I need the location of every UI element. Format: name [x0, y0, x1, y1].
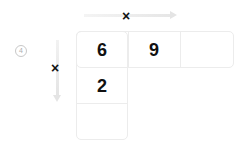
multiply-operator-left: ×	[51, 61, 59, 75]
cell-r0c2[interactable]	[180, 32, 232, 68]
horizontal-arrow-head-icon	[170, 11, 177, 19]
step-badge: 4	[15, 45, 27, 57]
vertical-arrow-head-icon	[53, 95, 61, 102]
cell-r0c1[interactable]: 9	[128, 32, 180, 68]
cell-r2c0[interactable]	[76, 104, 128, 140]
cell-r0c0[interactable]: 6	[76, 32, 128, 68]
cell-r1c0[interactable]: 2	[76, 68, 128, 104]
multiply-operator-top: ×	[122, 9, 130, 23]
